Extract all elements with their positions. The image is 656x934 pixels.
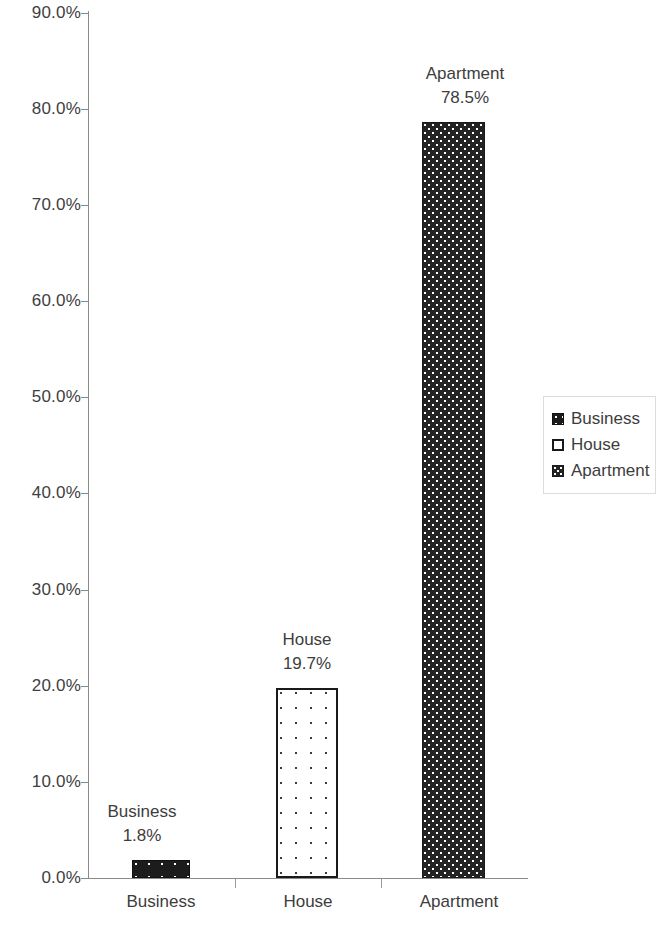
y-axis-tick-label: 40.0% [5,483,81,503]
data-label-value: 19.7% [247,652,367,676]
y-axis-tick-label: 50.0% [5,387,81,407]
bar-house[interactable] [276,688,338,878]
x-axis-category-label-business: Business [101,892,221,912]
legend-swatch-icon [552,465,564,477]
y-axis-tick-label: 80.0% [5,99,81,119]
y-axis-labels: 90.0% 80.0% 70.0% 60.0% 50.0% 40.0% 30.0… [0,0,81,934]
legend-item-label: Apartment [571,461,649,481]
x-axis-category-label-apartment: Apartment [384,892,534,912]
data-label-house: House 19.7% [247,628,367,676]
legend-item-house[interactable]: House [552,432,655,458]
legend-item-label: House [571,435,620,455]
x-axis-tick [235,879,236,888]
legend: Business House Apartment [543,396,656,494]
y-axis-tick-label: 60.0% [5,291,81,311]
legend-swatch-icon [552,413,564,425]
legend-item-business[interactable]: Business [552,406,655,432]
bar-chart: 90.0% 80.0% 70.0% 60.0% 50.0% 40.0% 30.0… [0,0,656,934]
data-label-name: Business [82,800,202,824]
y-axis-tick-label: 20.0% [5,676,81,696]
legend-swatch-icon [552,439,564,451]
legend-item-label: Business [571,409,640,429]
data-label-value: 78.5% [395,86,535,110]
bar-business[interactable] [132,860,190,878]
y-axis-tick-label: 70.0% [5,195,81,215]
y-axis-tick-label: 0.0% [5,868,81,888]
x-axis-line [88,878,528,879]
bar-apartment[interactable] [422,122,485,878]
plot-area [89,13,528,878]
legend-item-apartment[interactable]: Apartment [552,458,655,484]
x-axis-category-label-house: House [248,892,368,912]
y-axis-tick-label: 90.0% [5,3,81,23]
data-label-business: Business 1.8% [82,800,202,848]
y-axis-tick-label: 10.0% [5,772,81,792]
data-label-name: Apartment [395,62,535,86]
y-axis-tick-label: 30.0% [5,580,81,600]
x-axis-tick [381,879,382,888]
data-label-name: House [247,628,367,652]
data-label-value: 1.8% [82,824,202,848]
data-label-apartment: Apartment 78.5% [395,62,535,110]
